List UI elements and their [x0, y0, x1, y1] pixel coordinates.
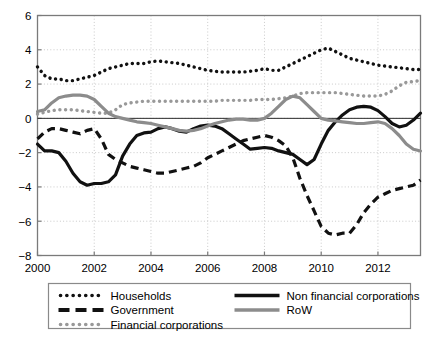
chart-legend: HouseholdsGovernmentFinancial corporatio…: [49, 284, 420, 331]
y-tick-label: −2: [18, 147, 31, 159]
y-tick-label: −6: [18, 216, 31, 228]
x-tick-label: 2010: [308, 262, 334, 274]
legend-item-label: Government: [111, 304, 175, 316]
x-tick-label: 2012: [365, 262, 391, 274]
sector-balances-chart: 6420−2−4−6−8 200020022004200620082010201…: [0, 0, 432, 350]
x-tick-label: 2000: [25, 262, 51, 274]
x-tick-label: 2004: [138, 262, 164, 274]
y-tick-label: 0: [25, 113, 31, 125]
legend-item-label: Financial corporations: [111, 319, 224, 331]
y-tick-label: −8: [18, 250, 31, 262]
y-tick-label: −4: [18, 181, 32, 193]
chart-screenshot: 6420−2−4−6−8 200020022004200620082010201…: [0, 0, 432, 350]
x-tick-label: 2006: [195, 262, 221, 274]
y-tick-label: 4: [25, 44, 32, 56]
x-tick-label: 2008: [252, 262, 278, 274]
legend-item-label: Non financial corporations: [287, 290, 420, 302]
x-tick-label: 2002: [81, 262, 107, 274]
y-tick-label: 6: [25, 10, 31, 22]
y-tick-label: 2: [25, 78, 31, 90]
legend-item-label: RoW: [287, 304, 313, 316]
legend-item-label: Households: [111, 290, 172, 302]
